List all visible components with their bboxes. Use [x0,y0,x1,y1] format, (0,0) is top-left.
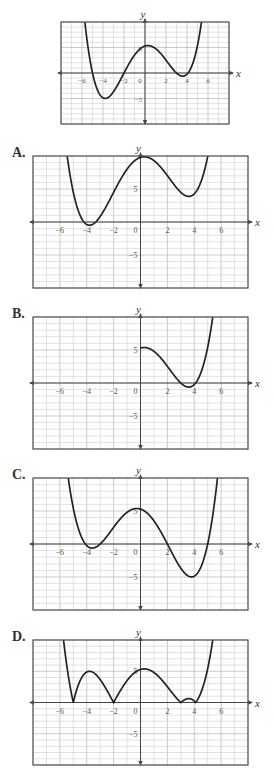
x-tick-label: 2 [165,387,169,396]
y-tick-label: −5 [129,573,138,582]
graph-reference: −6−4−202465−5xy [61,22,229,124]
x-tick-label: −2 [109,387,118,396]
x-axis-label: x [254,538,260,550]
x-tick-label: −4 [82,707,91,716]
x-tick-label: 2 [165,707,169,716]
y-tick-label: 5 [134,346,138,355]
x-tick-label: 6 [219,226,223,235]
option-label-c[interactable]: C. [12,467,26,483]
function-curve [85,22,202,98]
x-axis-label: x [235,67,241,79]
y-axis-label: y [135,142,141,154]
y-axis-label: y [135,464,141,476]
x-tick-label: −4 [82,548,91,557]
x-axis-label: x [254,377,260,389]
graph-b: −6−4−202465−5xy [33,317,248,449]
x-tick-label: 0 [138,77,142,85]
x-tick-label: −6 [78,77,86,85]
x-tick-label: 0 [134,707,138,716]
x-tick-label: 0 [134,226,138,235]
plot-area: −6−4−202465−5xy [33,156,248,288]
x-tick-label: −6 [56,707,65,716]
x-tick-label: −6 [56,226,65,235]
x-tick-label: 2 [164,77,168,85]
x-tick-label: 0 [134,548,138,557]
x-tick-label: −4 [82,226,91,235]
x-tick-label: −6 [56,548,65,557]
graph-c: −6−4−202465−5xy [33,478,248,610]
y-axis-label: y [135,626,141,638]
x-tick-label: −2 [109,226,118,235]
x-tick-label: 4 [192,707,196,716]
y-tick-label: −5 [129,251,138,260]
x-tick-label: −4 [82,387,91,396]
option-label-b[interactable]: B. [12,306,25,322]
option-label-d[interactable]: D. [12,629,26,645]
graph-d: −6−4−202465−5xy [33,640,248,765]
y-tick-label: −5 [135,96,143,104]
x-tick-label: 2 [165,226,169,235]
x-tick-label: −2 [109,707,118,716]
x-tick-label: −4 [99,77,107,85]
x-tick-label: 4 [185,77,189,85]
x-tick-label: −6 [56,387,65,396]
x-tick-label: −2 [109,548,118,557]
x-tick-label: 0 [134,387,138,396]
x-tick-label: 4 [192,226,196,235]
y-tick-label: 5 [134,185,138,194]
x-tick-label: 2 [165,548,169,557]
x-axis-label: x [254,216,260,228]
y-tick-label: −5 [129,730,138,739]
x-axis-label: x [254,697,260,709]
x-tick-label: 6 [219,387,223,396]
plot-area: −6−4−202465−5xy [33,317,248,449]
plot-area: −6−4−202465−5xy [33,640,248,765]
y-axis-label: y [135,303,141,315]
plot-area: −6−4−202465−5xy [61,22,229,124]
x-tick-label: 6 [219,548,223,557]
x-tick-label: 6 [219,707,223,716]
plot-area: −6−4−202465−5xy [33,478,248,610]
graph-a: −6−4−202465−5xy [33,156,248,288]
function-curve [68,478,218,577]
y-tick-label: −5 [129,412,138,421]
option-label-a[interactable]: A. [12,145,26,161]
x-tick-label: 6 [206,77,210,85]
x-tick-label: 4 [192,387,196,396]
x-tick-label: 4 [192,548,196,557]
function-curve [67,156,208,225]
y-axis-label: y [140,8,146,20]
